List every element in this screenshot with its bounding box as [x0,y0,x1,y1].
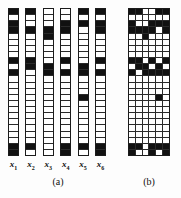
figure-container: x1x2x3x4x5x6 (a) (b) [0,0,181,198]
vector-column-4 [60,8,71,156]
bit-cell [96,150,105,155]
vector-column-5 [78,8,89,156]
matrix-column-3 [143,9,150,155]
matrix-column-1 [129,9,136,155]
bit-cell [44,150,53,155]
panel-a-label-row: x1x2x3x4x5x6 [8,158,108,172]
bit-cell [156,150,162,155]
matrix-column-4 [149,9,156,155]
bit-cell [9,150,18,155]
bit-cell [79,150,88,155]
matrix-column-2 [136,9,143,155]
panel-b-matrix [128,8,170,156]
vector-label-6: x6 [93,158,109,174]
vector-label-subscript: 6 [101,165,104,171]
vector-column-6 [95,8,106,156]
bit-cell [149,150,155,155]
bit-cell [136,150,142,155]
vector-label-4: x4 [58,158,74,174]
matrix-column-5 [156,9,163,155]
vector-label-subscript: 1 [14,165,17,171]
vector-label-subscript: 2 [32,165,35,171]
bit-cell [26,150,35,155]
caption-panel-a: (a) [38,175,78,189]
bit-cell [129,150,135,155]
bit-cell [143,150,149,155]
vector-label-5: x5 [75,158,91,174]
caption-row: (a) (b) [0,175,181,193]
vector-column-3 [43,8,54,156]
vector-label-2: x2 [23,158,39,174]
caption-panel-b: (b) [128,175,170,189]
vector-label-subscript: 3 [49,165,52,171]
vector-column-2 [25,8,36,156]
panel-a-vectors [8,8,108,156]
bit-cell [61,150,70,155]
vector-label-subscript: 5 [84,165,87,171]
matrix-column-6 [163,9,169,155]
bit-cell [163,150,169,155]
vector-column-1 [8,8,19,156]
vector-label-3: x3 [40,158,56,174]
vector-label-subscript: 4 [66,165,69,171]
vector-label-1: x1 [6,158,22,174]
